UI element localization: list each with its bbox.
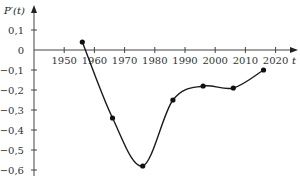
- y-axis-arrow-icon: [31, 5, 37, 13]
- x-tick-label: 1990: [172, 55, 197, 66]
- x-axis-label: t: [292, 55, 297, 66]
- y-tick-label: 0: [18, 45, 24, 56]
- line-chart: 0,10−0,1−0,2−0,3−0,4−0,5−0,6195019601970…: [0, 0, 300, 181]
- y-tick-label: −0,2: [0, 85, 24, 96]
- data-point-marker: [170, 97, 175, 102]
- x-axis-arrow-icon: [290, 47, 298, 53]
- y-tick-label: −0,6: [0, 165, 24, 176]
- data-point-marker: [231, 85, 236, 90]
- x-tick-label: 2020: [263, 55, 288, 66]
- x-tick-label: 1950: [51, 55, 76, 66]
- data-point-marker: [201, 83, 206, 88]
- x-tick-label: 1970: [112, 55, 137, 66]
- x-tick-label: 2010: [233, 55, 258, 66]
- data-point-marker: [140, 163, 145, 168]
- x-tick-label: 1960: [82, 55, 107, 66]
- x-tick-label: 2000: [202, 55, 227, 66]
- y-tick-label: −0,5: [0, 145, 24, 156]
- x-tick-label: 1980: [142, 55, 167, 66]
- data-point-marker: [110, 115, 115, 120]
- y-tick-label: −0,3: [0, 105, 24, 116]
- data-point-marker: [80, 39, 85, 44]
- y-tick-label: −0,4: [0, 125, 24, 136]
- data-point-marker: [261, 67, 266, 72]
- y-tick-label: −0,1: [0, 65, 24, 76]
- y-axis-label: P′(t): [3, 5, 25, 16]
- y-tick-label: 0,1: [8, 25, 24, 36]
